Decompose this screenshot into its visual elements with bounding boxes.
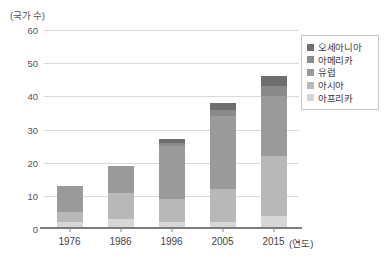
legend-item[interactable]: 유럽 (307, 66, 374, 79)
legend-swatch-icon (307, 94, 314, 101)
stacked-bar-chart: (국가 수) 6050403020100 1976198619962005201… (0, 0, 385, 263)
bar-segment[interactable] (261, 96, 287, 156)
x-axis-tick-mark (69, 229, 70, 232)
x-axis-tick-label: 1986 (109, 236, 131, 247)
x-axis-tick-mark (120, 229, 121, 232)
bar-stack[interactable] (108, 166, 134, 229)
legend-item-label: 아프리카 (318, 91, 353, 105)
bar-segment[interactable] (210, 110, 236, 117)
chart-legend: 오세아니아아메리카유럽아시아아프리카 (301, 35, 379, 110)
bar-segment[interactable] (159, 146, 185, 199)
x-axis-tick-mark (171, 229, 172, 232)
legend-swatch-icon (307, 82, 314, 89)
legend-swatch-icon (307, 56, 314, 63)
y-axis-tick-label: 0 (33, 224, 38, 235)
bar-stack[interactable] (57, 186, 83, 229)
y-axis-tick-label: 30 (27, 124, 38, 135)
x-axis-tick-label: 1996 (160, 236, 182, 247)
y-axis-tick-label: 20 (27, 157, 38, 168)
x-axis-unit-label: (연도) (289, 236, 313, 250)
bar-segment[interactable] (57, 186, 83, 213)
legend-swatch-icon (307, 69, 314, 76)
bar-segment[interactable] (159, 199, 185, 222)
y-axis-title: (국가 수) (10, 8, 45, 22)
x-axis-tick-mark (222, 229, 223, 232)
x-axis-tick-label: 2015 (262, 236, 284, 247)
legend-item[interactable]: 아시아 (307, 79, 374, 92)
bar-stack[interactable] (261, 76, 287, 229)
legend-item[interactable]: 아메리카 (307, 54, 374, 67)
bar-segment[interactable] (261, 86, 287, 96)
y-axis-tick-label: 50 (27, 58, 38, 69)
gridline (44, 30, 299, 31)
bar-segment[interactable] (261, 76, 287, 86)
bar-segment[interactable] (261, 156, 287, 216)
y-axis-tick-label: 60 (27, 25, 38, 36)
y-axis-tick-label: 10 (27, 190, 38, 201)
legend-swatch-icon (307, 44, 314, 51)
bar-stack[interactable] (159, 139, 185, 229)
bar-stack[interactable] (210, 103, 236, 229)
bar-segment[interactable] (210, 189, 236, 222)
x-axis-tick-mark (273, 229, 274, 232)
plot-area: 6050403020100 19761986199620052015 (연도) (44, 30, 299, 229)
bar-segment[interactable] (57, 212, 83, 222)
bar-segment[interactable] (108, 193, 134, 220)
y-axis-tick-label: 40 (27, 91, 38, 102)
bar-segment[interactable] (210, 103, 236, 110)
x-axis-tick-label: 1976 (58, 236, 80, 247)
x-axis-tick-label: 2005 (211, 236, 233, 247)
gridline (44, 63, 299, 64)
bar-segment[interactable] (108, 166, 134, 193)
legend-item[interactable]: 아프리카 (307, 91, 374, 104)
bar-segment[interactable] (210, 116, 236, 189)
legend-item[interactable]: 오세아니아 (307, 41, 374, 54)
